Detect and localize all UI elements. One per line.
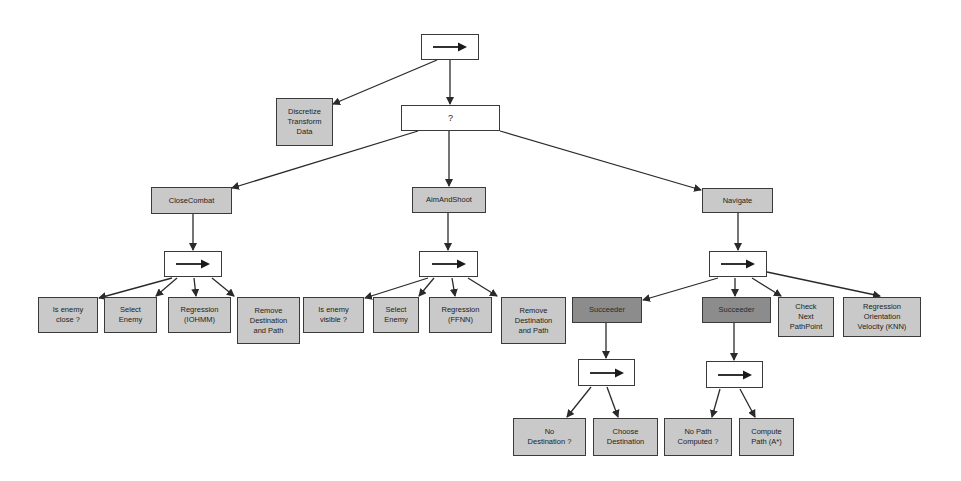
sequence-arrow-icon [587,367,627,379]
node-label: Check Next PathPoint [790,302,823,332]
node-cc-regr: Regression (IOHMM) [168,297,231,333]
node-as-visible: Is enemy visible ? [303,297,364,333]
node-no-dest: No Destination ? [513,418,586,456]
node-nav-seq: → [709,251,767,277]
sequence-arrow-icon [715,369,755,381]
edge-cc_seq-to-cc_regr [194,278,196,296]
edge-cc_seq-to-cc_close [99,278,172,298]
edge-cc_seq-to-cc_select [156,278,177,296]
node-choose-dest: Choose Destination [593,418,658,456]
node-cc-remove: Remove Destination and Path [237,297,300,344]
node-compute-path: Compute Path (A*) [739,418,794,456]
node-label: Remove Destination and Path [515,306,553,336]
node-label: No Destination ? [528,427,572,447]
sequence-arrow-icon [429,258,469,270]
edge-s2_seq-to-no_path [712,389,720,417]
node-label: Succeeder [719,305,755,315]
edge-as_seq-to-as_close [365,278,428,298]
node-closecombat: CloseCombat [151,187,232,214]
edge-as_seq-to-as_remove [468,278,497,296]
node-label: Select Enemy [384,305,407,325]
node-label: Select Enemy [119,305,142,325]
node-as-remove: Remove Destination and Path [501,297,566,344]
node-label: Regression (FFNN) [442,305,480,325]
node-succ2: Succeeder [702,297,771,323]
node-label: Is enemy close ? [53,305,83,325]
node-as-select: Select Enemy [373,297,419,333]
node-label: Discretize Transform Data [288,107,322,137]
sequence-arrow-icon [718,258,758,270]
edge-as_seq-to-as_select [419,278,434,296]
sequence-arrow-icon [173,258,213,270]
node-label: Regression Orientation Velocity (KNN) [858,302,907,332]
node-discretize: Discretize Transform Data [276,98,333,146]
edge-nav_seq-to-nav_regr [767,272,880,296]
node-label: Regression (IOHMM) [181,305,219,325]
node-label: Navigate [723,196,753,206]
edge-layer [0,0,961,481]
node-label: Compute Path (A*) [751,427,781,447]
node-selector: ? [401,105,500,131]
node-label: No Path Computed ? [678,427,719,447]
node-cc-select: Select Enemy [104,297,157,333]
edge-root-to-discretize [333,60,437,104]
node-cc-seq: → [164,251,222,277]
node-label: Choose Destination [607,427,645,447]
edge-s2_seq-to-compute_path [740,389,755,417]
edge-s1_seq-to-no_dest [567,387,591,417]
node-navigate: Navigate [702,188,773,213]
node-label: ? [448,113,453,123]
node-nav-check: Check Next PathPoint [778,297,834,337]
edge-nav_seq-to-nav_check [752,278,781,296]
edge-cc_seq-to-cc_remove [212,278,234,296]
node-no-path: No Path Computed ? [664,418,732,456]
node-succ1: Succeeder [572,297,642,323]
node-root: → [421,34,479,60]
node-label: Succeeder [589,305,625,315]
node-label: AimAndShoot [426,195,472,205]
node-label: Remove Destination and Path [250,306,288,336]
node-aimandshoot: AimAndShoot [412,187,486,213]
node-as-seq: → [419,251,478,277]
node-label: CloseCombat [169,196,214,206]
node-cc-close: Is enemy close ? [38,297,98,333]
edge-selector-to-navigate [500,131,701,190]
node-label: Is enemy visible ? [318,305,348,325]
node-s2-seq: → [706,361,763,388]
node-nav-regr: Regression Orientation Velocity (KNN) [843,297,921,337]
node-s1-seq: → [578,359,635,386]
node-as-regr: Regression (FFNN) [429,297,492,333]
behavior-tree-diagram: →Discretize Transform Data?CloseCombatAi… [0,0,961,481]
edge-as_seq-to-as_regr [452,278,455,296]
edge-s1_seq-to-choose_dest [607,387,618,417]
sequence-arrow-icon [430,41,470,53]
